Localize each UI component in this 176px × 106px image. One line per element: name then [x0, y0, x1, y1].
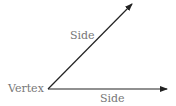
upper-side-label: Side [70, 29, 95, 42]
vertex-label: Vertex [7, 82, 45, 95]
angle-diagram: Side Vertex Side [0, 0, 176, 106]
upper-side-ray [48, 4, 132, 89]
lower-side-label: Side [100, 92, 125, 105]
